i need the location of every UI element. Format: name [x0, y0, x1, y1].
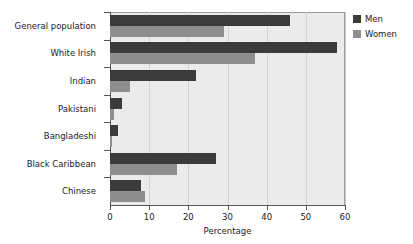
x-axis-tick-label: 30 [216, 212, 240, 222]
x-axis-tick-label: 20 [176, 212, 200, 222]
legend-item-women: Women [353, 27, 411, 41]
bars-layer [110, 12, 345, 205]
x-axis-tick [110, 205, 111, 210]
bar-women-white-irish [110, 53, 255, 64]
bar-men-general-population [110, 15, 290, 26]
x-axis-tick [345, 205, 346, 210]
x-axis-tick-label: 50 [294, 212, 318, 222]
legend-label-men: Men [365, 14, 383, 24]
category-label-pakistani: Pakistani [58, 104, 96, 114]
category-label-black-caribbean: Black Caribbean [27, 159, 96, 169]
legend-label-women: Women [365, 29, 397, 39]
legend-item-men: Men [353, 12, 411, 26]
legend: Men Women [353, 12, 411, 42]
category-label-chinese: Chinese [62, 186, 96, 196]
category-label-bangladeshi: Bangladeshi [44, 131, 96, 141]
bar-men-indian [110, 70, 196, 81]
bar-women-bangladeshi [110, 136, 112, 147]
x-axis-tick-label: 60 [333, 212, 357, 222]
bar-women-black-caribbean [110, 164, 177, 175]
x-axis-tick-label: 10 [137, 212, 161, 222]
bar-men-pakistani [110, 98, 122, 109]
bar-men-white-irish [110, 42, 337, 53]
x-axis-tick [149, 205, 150, 210]
bar-chart: General populationWhite IrishIndianPakis… [0, 0, 413, 244]
legend-swatch-women-icon [353, 30, 361, 38]
x-axis-tick [188, 205, 189, 210]
bar-women-pakistani [110, 109, 114, 120]
category-label-general-population: General population [15, 21, 96, 31]
bar-men-black-caribbean [110, 153, 216, 164]
bar-men-bangladeshi [110, 125, 118, 136]
x-axis-tick [267, 205, 268, 210]
category-label-indian: Indian [70, 76, 96, 86]
legend-swatch-men-icon [353, 15, 361, 23]
gridline [345, 12, 346, 205]
bar-women-chinese [110, 191, 145, 202]
x-axis-tick [306, 205, 307, 210]
x-axis-title: Percentage [110, 226, 345, 236]
bar-men-chinese [110, 180, 141, 191]
x-axis-tick-label: 0 [98, 212, 122, 222]
bar-women-general-population [110, 26, 224, 37]
category-label-white-irish: White Irish [50, 48, 96, 58]
bar-women-indian [110, 81, 130, 92]
x-axis-tick [228, 205, 229, 210]
x-axis-tick-label: 40 [255, 212, 279, 222]
